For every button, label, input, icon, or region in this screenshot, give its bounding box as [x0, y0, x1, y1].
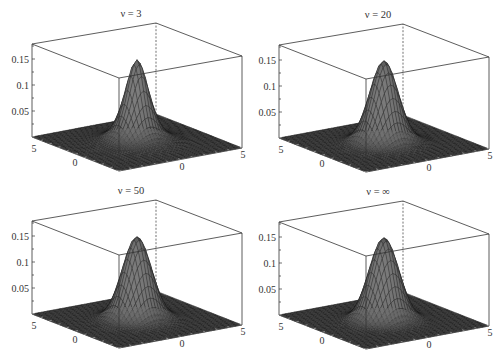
z-axis-ticks [279, 224, 282, 302]
top-back-right-edge [156, 23, 242, 56]
top-back-right-edge [156, 200, 242, 233]
z-tick-label: 0.1 [264, 81, 277, 92]
top-front-left-edge [279, 45, 366, 79]
z-axis-ticks [279, 47, 282, 125]
top-front-left-edge [32, 44, 119, 78]
panel-nu-infinity: ν = ∞ 0.15 0.1 0.05 5 0 0 5 [259, 186, 493, 350]
surface-mesh [32, 237, 242, 348]
x-tick-label: 0 [180, 338, 185, 349]
z-axis-ticks [32, 46, 35, 124]
y-tick-label: 0 [73, 157, 78, 168]
y-tick-label: 0 [320, 335, 325, 346]
y-tick-label: 0 [320, 158, 325, 169]
x-tick-label: 0 [180, 161, 185, 172]
top-back-left-edge [279, 201, 403, 222]
y-tick-label: 5 [32, 320, 37, 331]
z-axis-ticks [32, 223, 35, 301]
surface-mesh [279, 238, 489, 349]
x-tick-label: 5 [488, 327, 493, 338]
panel-nu-20: ν = 20 0.15 0.1 0.05 5 0 0 5 [259, 9, 493, 173]
z-tick-label: 0.15 [259, 55, 277, 66]
top-front-left-edge [32, 221, 119, 255]
x-tick-label: 5 [488, 150, 493, 161]
figure: ν = 3 0.15 0.1 0.05 5 0 0 5 ν = 20 0.15 … [0, 0, 499, 356]
top-back-left-edge [32, 23, 156, 44]
panel-nu-3: ν = 3 0.15 0.1 0.05 5 0 0 5 [12, 8, 246, 172]
y-tick-label: 5 [32, 143, 37, 154]
z-tick-label: 0.05 [12, 106, 30, 117]
x-tick-label: 5 [241, 149, 246, 160]
top-back-left-edge [279, 24, 403, 45]
z-tick-label: 0.15 [259, 232, 277, 243]
panel-title: ν = 50 [118, 185, 144, 196]
y-tick-label: 5 [279, 144, 284, 155]
top-front-left-edge [279, 222, 366, 256]
panel-title: ν = 3 [120, 8, 141, 19]
z-tick-label: 0.15 [12, 231, 30, 242]
panel-title: ν = ∞ [366, 186, 389, 197]
z-tick-label: 0.1 [264, 258, 277, 269]
top-back-right-edge [403, 201, 489, 234]
z-tick-label: 0.1 [17, 257, 30, 268]
x-tick-label: 5 [241, 326, 246, 337]
top-back-left-edge [32, 200, 156, 221]
panel-nu-50: ν = 50 0.15 0.1 0.05 5 0 0 5 [12, 185, 246, 349]
x-tick-label: 0 [427, 162, 432, 173]
z-tick-label: 0.15 [12, 54, 30, 65]
z-tick-label: 0.1 [17, 80, 30, 91]
y-tick-label: 5 [279, 321, 284, 332]
panel-title: ν = 20 [365, 9, 391, 20]
z-tick-label: 0.05 [259, 107, 277, 118]
x-tick-label: 0 [427, 339, 432, 350]
top-back-right-edge [403, 24, 489, 57]
surface-mesh [279, 61, 489, 172]
z-tick-label: 0.05 [259, 284, 277, 295]
y-tick-label: 0 [73, 334, 78, 345]
z-tick-label: 0.05 [12, 283, 30, 294]
